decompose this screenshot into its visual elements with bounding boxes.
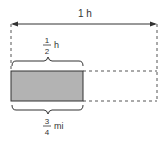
bottom-brace-icon [12,105,83,114]
half-time-fraction: 1 2 h [43,36,59,56]
svg-text:mi: mi [54,121,64,131]
svg-text:4: 4 [45,128,50,137]
time-distance-diagram: 1 h 1 2 h 3 4 mi [0,0,168,145]
svg-text:1: 1 [45,36,50,45]
arrow-left-head-icon [11,22,18,27]
svg-text:2: 2 [45,47,50,56]
total-time-label: 1 h [78,8,92,19]
svg-text:h: h [54,40,59,50]
total-time-arrow [11,22,157,27]
distance-fraction: 3 4 mi [43,117,64,137]
arrow-right-head-icon [150,22,157,27]
shaded-half-hour-block [11,71,83,101]
svg-text:3: 3 [45,117,50,126]
top-brace-icon [12,57,83,66]
